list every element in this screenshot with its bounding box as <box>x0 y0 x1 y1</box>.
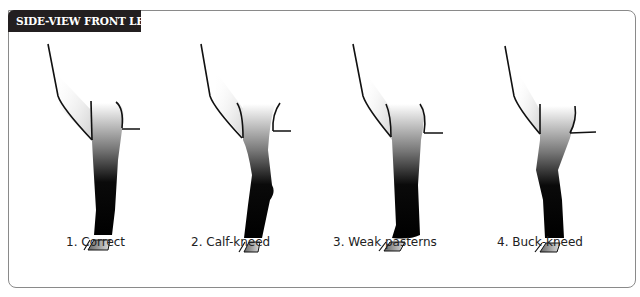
leg-buck-kneed-drawing <box>505 46 596 252</box>
leg-label-weak-pasterns: 3. Weak pasterns <box>333 235 437 249</box>
leg-label-calf-kneed: 2. Calf-kneed <box>191 235 270 249</box>
leg-label-correct: 1. Correct <box>66 235 125 249</box>
leg-weak-pasterns-drawing <box>353 44 443 251</box>
leg-calf-kneed-drawing <box>201 44 291 252</box>
leg-label-buck-kneed: 4. Buck-kneed <box>497 235 583 249</box>
legs-illustration <box>0 0 640 297</box>
leg-correct-drawing <box>48 44 140 250</box>
